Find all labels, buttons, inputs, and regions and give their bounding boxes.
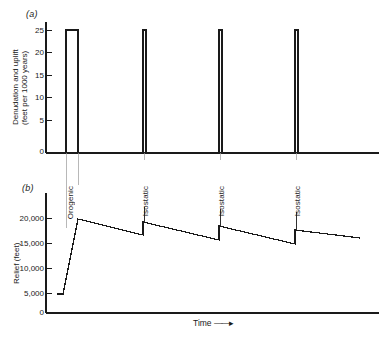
panel-connector-guides xyxy=(66,153,297,228)
figure-container: (a) Denudation and uplift (feet per 1000… xyxy=(0,0,385,337)
panel-a-bar-isostatic-2 xyxy=(219,30,222,153)
panel-b-relief-curve xyxy=(57,219,360,294)
panel-a-bar-orogenic xyxy=(66,30,78,153)
panel-b-tick-marks xyxy=(46,218,52,313)
panel-a-tick-marks xyxy=(46,30,52,153)
panel-a-bar-isostatic-3 xyxy=(295,30,298,153)
figure-plot-svg xyxy=(0,0,385,337)
panel-a-bar-isostatic-1 xyxy=(143,30,146,153)
